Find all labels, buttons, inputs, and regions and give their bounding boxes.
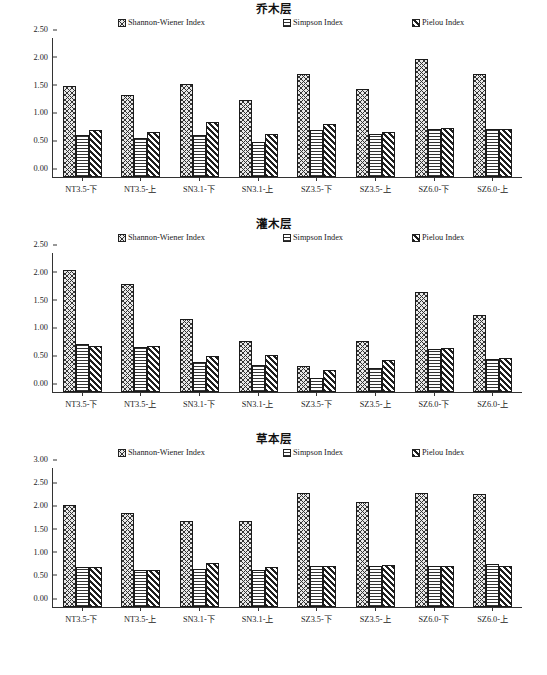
bar-group — [463, 38, 522, 177]
legend-item-shannon-wiener: Shannon-Wiener Index — [118, 233, 205, 242]
y-axis-tick-label: 1.00 — [33, 323, 53, 332]
x-axis-tick-label: SN3.1-下 — [170, 182, 229, 198]
x-axis-tick-label: SZ6.0-下 — [405, 612, 464, 628]
bar — [415, 292, 428, 392]
x-axis-tick-label: NT3.5-上 — [111, 182, 170, 198]
plot-area: 0.000.501.001.502.002.50 — [52, 253, 522, 393]
x-axis-tick-label: SZ3.5-下 — [287, 182, 346, 198]
bar — [486, 564, 499, 607]
bar — [239, 100, 252, 177]
y-axis-tick-label: 1.50 — [33, 524, 53, 533]
x-axis-tick-label: SZ3.5-下 — [287, 612, 346, 628]
bar — [76, 344, 89, 392]
bar-group — [288, 253, 347, 392]
bar — [239, 521, 252, 607]
bar — [134, 138, 147, 177]
x-axis-tick — [375, 177, 376, 181]
x-axis-tick — [434, 177, 435, 181]
bar-group — [229, 468, 288, 607]
y-axis-tick-label: 2.50 — [33, 478, 53, 487]
legend-label: Pielou Index — [422, 448, 464, 457]
bar — [428, 566, 441, 607]
bar-group — [112, 468, 171, 607]
bar — [76, 135, 89, 177]
bar — [323, 566, 336, 607]
x-axis-tick-label: SZ6.0-上 — [463, 397, 522, 413]
y-axis-tick-label: 0.00 — [33, 379, 53, 388]
legend-swatch-icon — [118, 449, 126, 457]
bar-group — [288, 38, 347, 177]
bar — [121, 95, 134, 177]
x-axis-labels: NT3.5-下NT3.5-上SN3.1-下SN3.1-上SZ3.5-下SZ3.5… — [52, 397, 522, 413]
x-axis-tick — [492, 607, 493, 611]
bar — [265, 134, 278, 177]
y-axis-tick-label: 0.00 — [33, 594, 53, 603]
legend-label: Simpson Index — [293, 18, 343, 27]
y-axis-tick-label: 1.50 — [33, 295, 53, 304]
bar — [473, 74, 486, 177]
chart-panel-shrub-layer: 灌木层 Shannon-Wiener Index Simpson Index P… — [0, 215, 547, 430]
bar — [323, 124, 336, 177]
x-axis-tick-label: NT3.5-下 — [52, 612, 111, 628]
bar — [297, 74, 310, 177]
legend-label: Simpson Index — [293, 448, 343, 457]
y-axis-tick-label: 0.00 — [33, 164, 53, 173]
bar — [252, 570, 265, 607]
bar-group — [229, 38, 288, 177]
bar-group — [53, 38, 112, 177]
bar — [265, 355, 278, 392]
x-axis-tick-label: NT3.5-下 — [52, 182, 111, 198]
bar-group — [463, 253, 522, 392]
bar-group — [170, 38, 229, 177]
x-axis-tick — [375, 392, 376, 396]
x-axis-tick — [492, 392, 493, 396]
x-axis-tick — [140, 607, 141, 611]
legend-item-shannon-wiener: Shannon-Wiener Index — [118, 18, 205, 27]
bar-group — [463, 468, 522, 607]
bar — [180, 319, 193, 392]
bar — [252, 142, 265, 177]
bar — [193, 362, 206, 392]
bar — [382, 360, 395, 392]
legend-label: Shannon-Wiener Index — [128, 18, 205, 27]
chart-legend: Shannon-Wiener Index Simpson Index Pielo… — [0, 233, 547, 247]
bar — [356, 341, 369, 392]
bar — [63, 505, 76, 607]
bar — [89, 346, 102, 392]
legend-item-pielou: Pielou Index — [412, 18, 464, 27]
y-axis-tick-label: 2.00 — [33, 267, 53, 276]
legend-item-simpson: Simpson Index — [283, 233, 343, 242]
bar — [428, 129, 441, 177]
bar — [206, 122, 219, 177]
y-axis-tick-label: 2.00 — [33, 501, 53, 510]
bar — [63, 270, 76, 392]
bar-groups — [53, 253, 522, 392]
legend-item-simpson: Simpson Index — [283, 448, 343, 457]
chart-title: 乔木层 — [0, 0, 547, 18]
legend-swatch-icon — [283, 19, 291, 27]
x-axis-tick — [375, 607, 376, 611]
bar — [310, 130, 323, 177]
x-axis-labels: NT3.5-下NT3.5-上SN3.1-下SN3.1-上SZ3.5-下SZ3.5… — [52, 612, 522, 628]
legend-swatch-icon — [412, 449, 420, 457]
x-axis-tick-label: SN3.1-下 — [170, 397, 229, 413]
x-axis-tick-label: NT3.5-下 — [52, 397, 111, 413]
x-axis-tick — [82, 392, 83, 396]
plot-area: 0.000.501.001.502.002.50 — [52, 38, 522, 178]
y-axis-tick-label: 2.50 — [33, 240, 53, 249]
bar — [356, 89, 369, 177]
bar-groups — [53, 468, 522, 607]
bar — [63, 86, 76, 177]
x-axis-tick — [82, 607, 83, 611]
legend-swatch-icon — [283, 449, 291, 457]
x-axis-tick — [492, 177, 493, 181]
bar — [369, 134, 382, 177]
legend-swatch-icon — [412, 234, 420, 242]
bar — [121, 513, 134, 607]
bar — [297, 493, 310, 607]
bar — [180, 84, 193, 177]
x-axis-tick — [434, 392, 435, 396]
bar-group — [53, 253, 112, 392]
x-axis-tick-label: NT3.5-上 — [111, 612, 170, 628]
x-axis-tick-label: SZ3.5-下 — [287, 397, 346, 413]
